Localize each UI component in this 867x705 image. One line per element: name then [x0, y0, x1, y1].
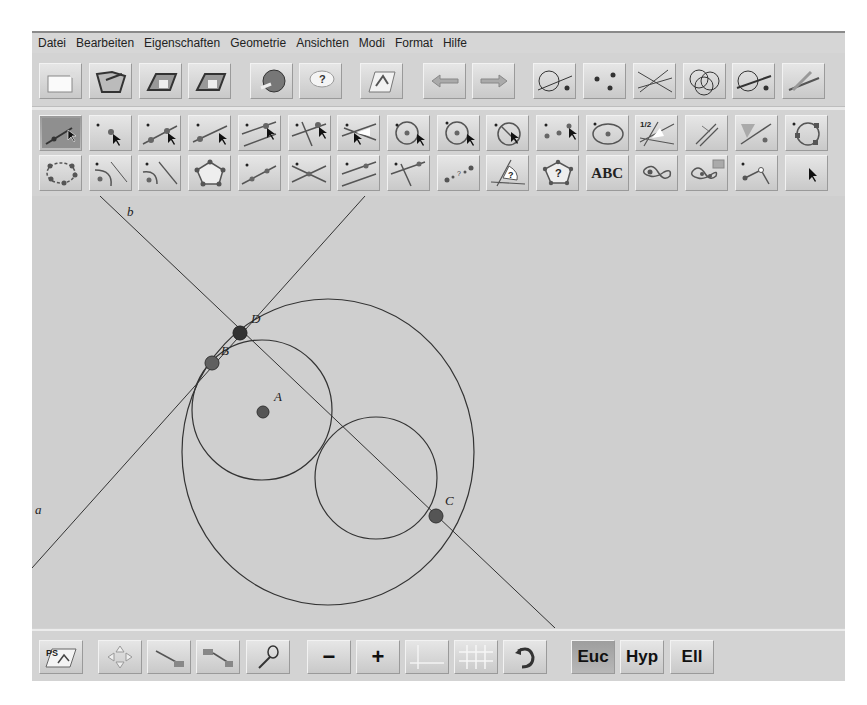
menu-ansichten[interactable]: Ansichten: [290, 36, 349, 50]
circle-through-three-points-tool-button[interactable]: [785, 115, 828, 151]
zoom-window-button[interactable]: [196, 640, 240, 674]
open-button[interactable]: [89, 63, 132, 99]
axes-icon: [408, 643, 446, 671]
circle-diameter-tool-button[interactable]: [486, 115, 529, 151]
three-point-circle-tool-button[interactable]: [536, 115, 579, 151]
rotate-button[interactable]: [503, 640, 547, 674]
svg-text:?: ?: [555, 167, 562, 179]
select-move-icon: [42, 118, 80, 148]
grid-button[interactable]: [454, 640, 498, 674]
new-button[interactable]: [39, 63, 82, 99]
menu-eigenschaften[interactable]: Eigenschaften: [138, 36, 220, 50]
polygon-question-tool-button[interactable]: ?: [536, 155, 579, 191]
points-button[interactable]: [583, 63, 626, 99]
label-point-a: A: [273, 389, 282, 404]
segment-join-tool-button[interactable]: [735, 155, 778, 191]
curve-macro-icon: [688, 158, 726, 188]
geometry-drawing[interactable]: b a A B C D: [32, 196, 845, 628]
zoom-out-button[interactable]: −: [307, 640, 351, 674]
menu-format[interactable]: Format: [389, 36, 433, 50]
parallel-line-tool-button[interactable]: [238, 115, 281, 151]
axes-button[interactable]: [405, 640, 449, 674]
toolbar-separator: [32, 106, 845, 110]
angle-bisector-tool-button[interactable]: [337, 115, 380, 151]
point-d[interactable]: [233, 326, 247, 340]
points-icon: [586, 66, 624, 96]
intersection-icon: [290, 158, 328, 188]
point-tool-button[interactable]: [89, 115, 132, 151]
intersect-line-circle-button[interactable]: [533, 63, 576, 99]
line-circle-point-button[interactable]: [732, 63, 775, 99]
compass-icon: [688, 118, 726, 148]
locus-points-tool-button[interactable]: ?: [437, 155, 480, 191]
line-through-points-tool-button[interactable]: [188, 115, 231, 151]
point-b[interactable]: [205, 356, 219, 370]
svg-text:1/2: 1/2: [640, 120, 652, 129]
line-b[interactable]: [100, 196, 555, 628]
perpendicular-point-icon: [389, 158, 427, 188]
circles-button[interactable]: [683, 63, 726, 99]
menu-hilfe[interactable]: Hilfe: [437, 36, 467, 50]
circle-center-tool-button[interactable]: [437, 115, 480, 151]
measure-angle-icon: 1/2: [638, 118, 676, 148]
open-icon: [92, 66, 130, 96]
construction-window-button[interactable]: [360, 63, 403, 99]
polygon-circle-tool-button[interactable]: [39, 155, 82, 191]
lines-button[interactable]: [633, 63, 676, 99]
segment-points-tool-button[interactable]: [238, 155, 281, 191]
circle-center-point-icon: [389, 118, 427, 148]
ellipse-tool-button[interactable]: [586, 115, 629, 151]
circle-center-point-tool-button[interactable]: [387, 115, 430, 151]
perpendicular-line-tool-button[interactable]: [288, 115, 331, 151]
point-c[interactable]: [429, 509, 443, 523]
curve-tool-button[interactable]: [635, 155, 678, 191]
ps-export-button[interactable]: PS: [39, 640, 83, 674]
angle-question-tool-button[interactable]: ?: [486, 155, 529, 191]
pointer-tool-button[interactable]: [785, 155, 828, 191]
circle-middle[interactable]: [315, 417, 437, 539]
measure-angle-tool-button[interactable]: 1/2: [635, 115, 678, 151]
hyperbolic-mode-button[interactable]: Hyp: [620, 640, 664, 674]
half-circle-line-tool-button[interactable]: [138, 155, 181, 191]
drawing-canvas[interactable]: b a A B C D: [32, 196, 845, 628]
help-button[interactable]: ?: [299, 63, 342, 99]
web-export-button[interactable]: [250, 63, 293, 99]
compass-tool-button[interactable]: [685, 115, 728, 151]
zoom-segment-button[interactable]: [147, 640, 191, 674]
perpendicular-point-tool-button[interactable]: [387, 155, 430, 191]
save-button[interactable]: [139, 63, 182, 99]
curve-macro-tool-button[interactable]: [685, 155, 728, 191]
point-on-line-tool-button[interactable]: [138, 115, 181, 151]
circle-line-tool-button[interactable]: [89, 155, 132, 191]
menu-datei[interactable]: Datei: [32, 36, 66, 50]
svg-text:PS: PS: [46, 648, 58, 658]
magnifier-button[interactable]: [246, 640, 290, 674]
rotate-icon: [506, 643, 544, 671]
angle-question-icon: ?: [489, 158, 527, 188]
undo-button[interactable]: [423, 63, 466, 99]
parallel-segments-tool-button[interactable]: [337, 155, 380, 191]
zoom-in-button[interactable]: +: [356, 640, 400, 674]
elliptic-mode-button[interactable]: Ell: [670, 640, 714, 674]
pentagon-icon: [191, 158, 229, 188]
circles-icon: [686, 66, 724, 96]
point-a[interactable]: [257, 406, 269, 418]
menu-modi[interactable]: Modi: [353, 36, 385, 50]
menu-bearbeiten[interactable]: Bearbeiten: [70, 36, 134, 50]
segment-join-icon: [737, 158, 775, 188]
redo-button[interactable]: [472, 63, 515, 99]
intersection-tool-button[interactable]: [288, 155, 331, 191]
menu-geometrie[interactable]: Geometrie: [224, 36, 286, 50]
save-as-button[interactable]: [188, 63, 231, 99]
euclidean-mode-button[interactable]: Euc: [571, 640, 615, 674]
zoom-window-icon: [199, 643, 237, 671]
new-icon: [42, 66, 80, 96]
pentagon-tool-button[interactable]: [188, 155, 231, 191]
move-view-button[interactable]: [98, 640, 142, 674]
trace-button[interactable]: [782, 63, 825, 99]
select-move-tool-button[interactable]: [39, 115, 82, 151]
text-abc-tool-button[interactable]: ABC: [586, 155, 629, 191]
reflect-tool-button[interactable]: [735, 115, 778, 151]
trace-icon: [785, 66, 823, 96]
save-icon: [142, 66, 180, 96]
